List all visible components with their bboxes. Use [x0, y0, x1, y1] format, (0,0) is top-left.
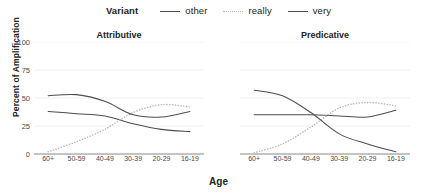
x-tick-label: 20-29	[148, 155, 176, 162]
legend-label-very: very	[313, 5, 331, 16]
x-tick-label: 16-19	[176, 155, 204, 162]
facet-title: Attributive	[34, 29, 204, 42]
x-axis-title: Age	[0, 176, 437, 187]
x-tick-label: 16-19	[382, 155, 410, 162]
legend-label-really: really	[248, 5, 271, 16]
x-tick-label: 60+	[34, 155, 62, 162]
series-line-other	[48, 111, 190, 131]
legend-line-swatch-other-icon	[160, 7, 180, 15]
x-tick-label: 40-49	[297, 155, 325, 162]
legend-title: Variant	[106, 5, 138, 16]
chart-legend: Variant other really very	[0, 5, 437, 16]
legend-line-swatch-very-icon	[288, 7, 308, 15]
y-tick-label: 100	[12, 38, 30, 47]
series-line-really	[48, 105, 190, 152]
series-line-really	[254, 102, 396, 152]
facet-title: Predicative	[240, 29, 410, 42]
plot-area	[34, 42, 204, 155]
y-tick-label: 50	[12, 94, 30, 103]
x-tick-label: 30-39	[325, 155, 353, 162]
series-line-very	[254, 90, 396, 152]
y-tick-label: 75	[12, 66, 30, 75]
y-tick-label: 0	[12, 150, 30, 159]
x-tick-label: 50-59	[269, 155, 297, 162]
legend-item-really[interactable]: really	[223, 5, 271, 16]
x-tick-label: 20-29	[354, 155, 382, 162]
facet-panel-predicative: Predicative	[240, 29, 410, 155]
x-tick-label: 60+	[240, 155, 268, 162]
legend-item-very[interactable]: very	[288, 5, 331, 16]
legend-item-other[interactable]: other	[160, 5, 207, 16]
chart-root: Variant other really very Percent of Amp…	[0, 0, 437, 195]
x-tick-label: 40-49	[91, 155, 119, 162]
legend-line-swatch-really-icon	[223, 7, 243, 15]
legend-label-other: other	[185, 5, 207, 16]
facet-panel-attributive: Attributive	[34, 29, 204, 155]
plot-area	[240, 42, 410, 155]
x-tick-label: 30-39	[119, 155, 147, 162]
y-tick-label: 25	[12, 122, 30, 131]
series-line-other	[254, 110, 396, 117]
x-tick-label: 50-59	[63, 155, 91, 162]
y-axis-ticks: 0255075100	[12, 42, 30, 154]
